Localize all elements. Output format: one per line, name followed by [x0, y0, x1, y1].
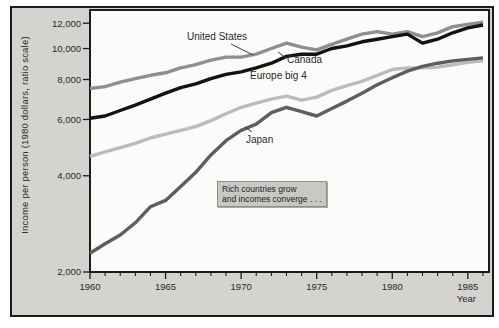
annotation-box: Rich countries grow and incomes converge… — [217, 181, 327, 207]
plot-area — [90, 10, 489, 272]
y-axis-ticks: 2,0004,0006,0008,00010,00012,000 — [52, 18, 90, 278]
series-label-united-states: United States — [187, 31, 247, 42]
series-label-europe-big-4: Europe big 4 — [250, 70, 307, 81]
x-tick-label: 1975 — [306, 281, 327, 292]
y-tick-label: 10,000 — [52, 43, 81, 54]
annotation-line1: Rich countries grow — [222, 184, 322, 194]
y-tick-label: 12,000 — [52, 18, 81, 29]
series-label-japan: Japan — [246, 134, 273, 145]
x-axis-title: Year — [430, 293, 476, 304]
y-tick-label: 6,000 — [57, 114, 81, 125]
x-tick-label: 1980 — [382, 281, 403, 292]
annotation-line2: and incomes converge . . . — [222, 194, 322, 204]
x-tick-label: 1970 — [231, 281, 252, 292]
x-tick-label: 1960 — [79, 281, 100, 292]
chart-plot: 2,0004,0006,0008,00010,00012,00019601965… — [0, 0, 499, 328]
y-tick-label: 4,000 — [57, 170, 81, 181]
x-axis-ticks: 196019651970197519801985 — [79, 272, 478, 292]
y-tick-label: 8,000 — [57, 74, 81, 85]
series-label-canada: Canada — [287, 54, 322, 65]
x-tick-label: 1985 — [457, 281, 478, 292]
y-tick-label: 2,000 — [57, 266, 81, 277]
y-axis-title: Income per person (1980 dollars, ratio s… — [19, 4, 32, 266]
x-tick-label: 1965 — [155, 281, 176, 292]
figure-page: 2,0004,0006,0008,00010,00012,00019601965… — [0, 0, 499, 328]
